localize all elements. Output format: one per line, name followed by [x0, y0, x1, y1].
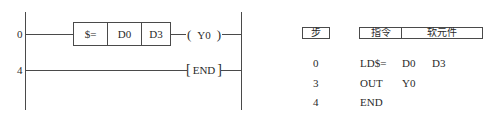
row-step: 0: [313, 57, 319, 69]
instruction-header-label: 指令: [360, 28, 401, 38]
end-instruction: [ END ]: [187, 63, 221, 77]
compare-operator: $=: [74, 23, 107, 45]
left-power-rail: [25, 12, 26, 110]
instruction-device-header: 指令 软元件: [359, 27, 483, 39]
row-step: 3: [313, 77, 319, 89]
rung-step-number: 0: [17, 28, 23, 40]
right-power-rail: [241, 12, 242, 110]
step-header: 步: [302, 27, 330, 39]
end-left-bracket-icon: [: [186, 62, 191, 78]
row-operand-1: D0: [402, 57, 415, 69]
output-coil: ( Y0 ): [186, 28, 222, 41]
step-header-label: 步: [303, 28, 329, 38]
device-header-label: 软元件: [401, 28, 482, 38]
end-label: END: [193, 64, 216, 76]
string-compare-block: $= D0 D3: [73, 22, 171, 46]
coil-device: Y0: [197, 29, 210, 41]
coil-right-paren-icon: ): [217, 27, 221, 43]
end-right-bracket-icon: ]: [217, 62, 222, 78]
compare-source-2: D3: [141, 23, 170, 45]
row-instruction: OUT: [360, 77, 383, 89]
row-operand-1: Y0: [402, 77, 415, 89]
row-instruction: END: [360, 96, 383, 108]
row-instruction: LD$=: [360, 57, 386, 69]
row-step: 4: [313, 96, 319, 108]
row-operand-2: D3: [432, 57, 445, 69]
coil-left-paren-icon: (: [187, 27, 191, 43]
compare-source-1: D0: [107, 23, 141, 45]
rung-step-number: 4: [17, 64, 23, 76]
